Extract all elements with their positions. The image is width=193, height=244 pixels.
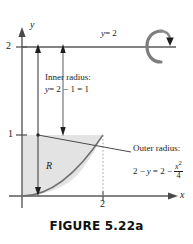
y-tick-label-1: 1: [8, 129, 13, 140]
region-label-R: R: [46, 161, 52, 172]
inner-radius-arrowhead-top: [60, 44, 65, 53]
outer-radius-annotation: Outer radius:: [133, 144, 180, 154]
y-axis-label: y: [30, 20, 34, 31]
inner-radius-arrowhead-bottom: [60, 127, 65, 136]
outer-radius-formula: 2 −y= 2 − x2 4: [133, 160, 183, 180]
x-tick-label-2: 2: [100, 199, 105, 210]
outer-radius-formula-prefix: 2 −: [133, 166, 145, 176]
inner-radius-formula-rhs: = 2 − 1 = 1: [49, 84, 89, 94]
line-equation-rhs: = 2: [105, 28, 117, 38]
figure-caption: FIGURE 5.22a: [0, 219, 193, 233]
fraction-numerator-exponent: 2: [179, 159, 182, 166]
inner-radius-title: Inner radius:: [45, 73, 91, 83]
inner-radius-formula: y= 2 − 1 = 1: [45, 85, 91, 95]
outer-radius-arrowhead-top: [35, 44, 41, 53]
outer-radius-title: Outer radius:: [133, 144, 180, 154]
outer-radius-leader-dot: [36, 133, 39, 136]
fraction-denominator: 4: [174, 172, 183, 180]
inner-radius-annotation: Inner radius: y= 2 − 1 = 1: [45, 73, 91, 94]
outer-radius-formula-var: y: [147, 166, 151, 176]
x-axis-label: x: [180, 190, 184, 201]
plot-canvas: [0, 0, 193, 244]
x-axis-arrowhead: [168, 192, 178, 199]
y-axis-arrowhead: [18, 27, 25, 37]
figure-container: y x 2 1 2 y= 2 Inner radius: y= 2 − 1 = …: [0, 0, 193, 244]
line-equation-label: y= 2: [101, 29, 117, 39]
outer-radius-fraction: x2 4: [174, 160, 183, 180]
outer-radius-formula-mid: = 2 −: [153, 166, 172, 176]
y-tick-label-2: 2: [6, 41, 11, 52]
shaded-region-R: [22, 135, 103, 196]
